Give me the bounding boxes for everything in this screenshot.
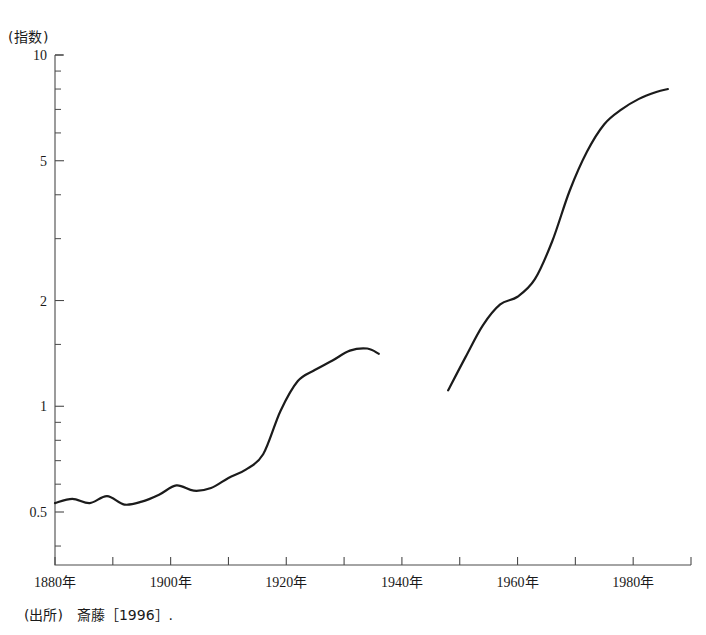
x-tick-label: 1900年 bbox=[150, 575, 192, 590]
x-tick-label: 1880年 bbox=[34, 575, 76, 590]
line-chart: 0.5125101880年1900年1920年1940年1960年1980年 bbox=[0, 0, 706, 635]
x-tick-label: 1920年 bbox=[265, 575, 307, 590]
x-tick-label: 1960年 bbox=[497, 575, 539, 590]
x-tick-label: 1980年 bbox=[612, 575, 654, 590]
y-tick-label: 2 bbox=[40, 294, 47, 309]
source-note: (出所) 斎藤［1996］. bbox=[24, 604, 173, 624]
y-tick-label: 0.5 bbox=[30, 505, 48, 520]
y-tick-label: 10 bbox=[33, 48, 47, 63]
y-tick-label: 5 bbox=[40, 154, 47, 169]
y-tick-label: 1 bbox=[40, 399, 47, 414]
x-tick-label: 1940年 bbox=[381, 575, 423, 590]
series-line-prewar bbox=[55, 348, 379, 504]
chart-axes bbox=[55, 55, 691, 565]
series-line-postwar bbox=[448, 89, 668, 390]
